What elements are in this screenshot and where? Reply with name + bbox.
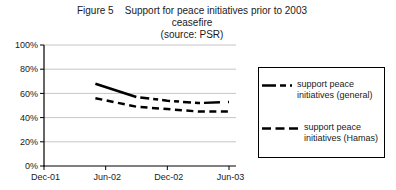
legend-item-hamas: support peace initiatives (Hamas): [262, 122, 394, 143]
x-tick-label: Jun-02: [93, 172, 121, 182]
dash-dot-line-sample-icon: [262, 81, 296, 90]
y-tick-label: 60%: [20, 89, 38, 99]
figure-5-line-chart: Figure 5 Support for peace initiatives p…: [0, 0, 396, 190]
y-tick-label: 100%: [15, 40, 38, 50]
y-tick-label: 40%: [20, 113, 38, 123]
legend-label-general: support peace initiatives (general): [297, 79, 387, 100]
dashed-line-sample-icon: [262, 124, 298, 133]
y-tick-label: 80%: [20, 64, 38, 74]
chart-legend: support peace initiatives (general) supp…: [258, 67, 385, 158]
x-tick-label: Dec-01: [31, 172, 60, 182]
x-tick-label: Jun-03: [217, 172, 245, 182]
legend-label-hamas: support peace initiatives (Hamas): [304, 122, 394, 143]
legend-item-general: support peace initiatives (general): [262, 79, 387, 100]
x-tick-label: Dec-02: [154, 172, 183, 182]
y-tick-label: 0%: [25, 161, 38, 171]
y-tick-label: 20%: [20, 137, 38, 147]
